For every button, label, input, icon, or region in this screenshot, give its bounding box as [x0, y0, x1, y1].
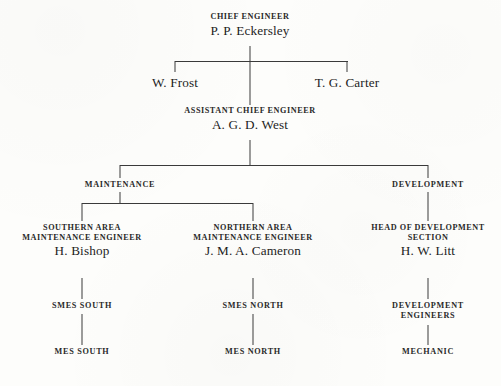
node-maintenance: MAINTENANCE	[85, 180, 155, 190]
southern-area-name: H. Bishop	[22, 243, 142, 259]
frost-name: W. Frost	[152, 75, 198, 91]
chief-engineer-role: CHIEF ENGINEER	[210, 12, 289, 22]
node-assistant-chief-engineer: ASSISTANT CHIEF ENGINEER A. G. D. West	[184, 106, 315, 132]
connector-chief-down	[250, 46, 251, 61]
connector-development-down	[428, 165, 429, 178]
node-northern-area: NORTHERN AREA MAINTENANCE ENGINEER J. M.…	[193, 223, 313, 259]
mes-north-label: MES NORTH	[225, 347, 281, 357]
org-chart: CHIEF ENGINEER P. P. Eckersley W. Frost …	[0, 0, 501, 386]
node-mes-north: MES NORTH	[225, 347, 281, 357]
node-smes-north: SMES NORTH	[222, 301, 283, 311]
chief-engineer-name: P. P. Eckersley	[210, 23, 289, 39]
node-development: DEVELOPMENT	[392, 180, 464, 190]
southern-area-role-line2: MAINTENANCE ENGINEER	[22, 233, 142, 243]
northern-area-name: J. M. A. Cameron	[193, 243, 313, 259]
carter-name: T. G. Carter	[315, 75, 380, 91]
connector-northern-to-smes	[253, 278, 254, 299]
connector-maintenance-stem	[120, 192, 121, 203]
connector-chief-to-assistant	[250, 61, 251, 105]
assistant-chief-engineer-name: A. G. D. West	[184, 117, 315, 133]
mechanic-label: MECHANIC	[402, 347, 454, 357]
connector-maintenance-split-bar	[82, 203, 253, 204]
connector-southern-to-smes	[82, 278, 83, 299]
head-development-role-line2: SECTION	[371, 233, 484, 243]
node-chief-engineer: CHIEF ENGINEER P. P. Eckersley	[210, 12, 289, 38]
northern-area-role-line1: NORTHERN AREA	[193, 223, 313, 233]
connector-southern-down	[82, 203, 83, 221]
head-development-role-line1: HEAD OF DEVELOPMENT	[371, 223, 484, 233]
mes-south-label: MES SOUTH	[55, 347, 110, 357]
node-southern-area: SOUTHERN AREA MAINTENANCE ENGINEER H. Bi…	[22, 223, 142, 259]
node-smes-south: SMES SOUTH	[52, 301, 112, 311]
maintenance-label: MAINTENANCE	[85, 180, 155, 190]
connector-head-to-dev-engineers	[428, 278, 429, 299]
development-engineers-line1: DEVELOPMENT	[392, 301, 464, 311]
connector-carter-down	[347, 61, 348, 72]
connector-assistant-down	[250, 140, 251, 165]
smes-north-label: SMES NORTH	[222, 301, 283, 311]
development-engineers-line2: ENGINEERS	[392, 311, 464, 321]
connector-level4-bar	[120, 165, 428, 166]
connector-dev-engineers-to-mechanic	[428, 325, 429, 345]
node-development-engineers: DEVELOPMENT ENGINEERS	[392, 301, 464, 320]
connector-smes-north-to-mes	[253, 314, 254, 345]
connector-northern-down	[253, 203, 254, 221]
development-label: DEVELOPMENT	[392, 180, 464, 190]
node-head-of-development-section: HEAD OF DEVELOPMENT SECTION H. W. Litt	[371, 223, 484, 259]
node-frost: W. Frost	[152, 74, 198, 91]
connector-frost-down	[175, 61, 176, 72]
connector-smes-south-to-mes	[82, 314, 83, 345]
connector-development-stem	[428, 192, 429, 221]
node-mechanic: MECHANIC	[402, 347, 454, 357]
assistant-chief-engineer-role: ASSISTANT CHIEF ENGINEER	[184, 106, 315, 116]
southern-area-role-line1: SOUTHERN AREA	[22, 223, 142, 233]
head-development-name: H. W. Litt	[371, 243, 484, 259]
paper-grain-overlay	[0, 0, 501, 386]
northern-area-role-line2: MAINTENANCE ENGINEER	[193, 233, 313, 243]
node-mes-south: MES SOUTH	[55, 347, 110, 357]
connector-maintenance-down	[120, 165, 121, 178]
connector-level2-bar	[175, 61, 348, 62]
node-carter: T. G. Carter	[315, 74, 380, 91]
smes-south-label: SMES SOUTH	[52, 301, 112, 311]
